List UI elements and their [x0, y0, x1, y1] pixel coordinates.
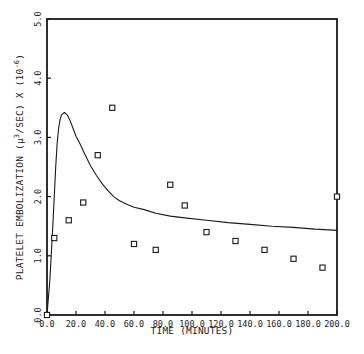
data-point-marker — [44, 312, 49, 317]
y-tick-label: 3.0 — [33, 130, 43, 145]
data-point-marker — [110, 105, 115, 110]
data-point-marker — [291, 256, 296, 261]
data-point-marker — [334, 194, 339, 199]
y-tick-label: 2.0 — [33, 189, 43, 204]
x-tick-label: 200.0 — [324, 319, 350, 329]
y-tick-label: 0.0 — [33, 307, 43, 322]
data-point-marker — [95, 153, 100, 158]
fit-curve-line — [47, 113, 337, 315]
data-points — [44, 105, 339, 317]
plot-frame — [47, 19, 337, 315]
data-point-marker — [81, 200, 86, 205]
y-axis-title: PLATELET EMBOLIZATION (μ3/SEC) X (10-6) — [13, 54, 25, 280]
data-point-marker — [66, 218, 71, 223]
data-point-marker — [168, 182, 173, 187]
y-axis-ticks: 0.01.02.03.04.05.0 — [33, 11, 51, 322]
model-curve — [47, 113, 337, 315]
y-tick-label: 4.0 — [33, 71, 43, 86]
plot-border — [47, 19, 337, 315]
data-point-marker — [52, 235, 57, 240]
data-point-marker — [262, 247, 267, 252]
y-tick-label: 1.0 — [33, 248, 43, 263]
data-point-marker — [153, 247, 158, 252]
x-tick-label: 40.0 — [95, 319, 115, 329]
x-tick-label: 140.0 — [237, 319, 263, 329]
data-point-marker — [233, 238, 238, 243]
data-point-marker — [131, 241, 136, 246]
x-tick-label: 60.0 — [124, 319, 144, 329]
data-point-marker — [320, 265, 325, 270]
chart: 0.020.040.060.080.0100.0120.0140.0160.01… — [0, 0, 364, 354]
x-tick-label: 160.0 — [266, 319, 292, 329]
data-point-marker — [182, 203, 187, 208]
x-tick-label: 20.0 — [66, 319, 86, 329]
x-axis-title: TIME (MINUTES) — [151, 325, 234, 336]
data-point-marker — [204, 230, 209, 235]
x-tick-label: 180.0 — [295, 319, 321, 329]
y-tick-label: 5.0 — [33, 11, 43, 26]
